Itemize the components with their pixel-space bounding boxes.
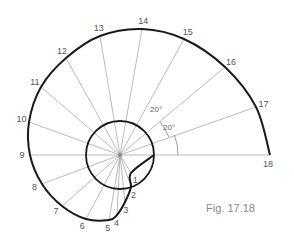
point-label: 13 — [94, 23, 104, 33]
point-label: 15 — [183, 27, 193, 37]
radial-line — [120, 29, 142, 155]
point-label: 12 — [57, 46, 67, 56]
point-label: 18 — [263, 159, 273, 169]
radial-line — [62, 155, 120, 206]
angle-arc — [175, 135, 178, 155]
center-point — [118, 153, 122, 157]
radial-line — [120, 67, 225, 155]
radial-line — [41, 87, 120, 155]
radial-line — [42, 155, 120, 184]
point-label: 17 — [259, 99, 269, 109]
involute-diagram: 20° 20° 123456789101112131415161718 Fig.… — [0, 0, 294, 248]
angle-label-1: 20° — [150, 105, 162, 114]
point-label: 6 — [80, 221, 85, 231]
point-label: 3 — [123, 205, 128, 215]
angle-label-2: 20° — [163, 123, 175, 132]
point-label: 7 — [53, 206, 58, 216]
figure-caption: Fig. 17.18 — [206, 202, 255, 214]
point-label: 4 — [114, 218, 119, 228]
radial-line — [120, 39, 184, 155]
point-label: 14 — [138, 16, 148, 26]
point-label: 10 — [16, 114, 26, 124]
point-label: 2 — [131, 190, 136, 200]
radial-line — [29, 122, 120, 155]
point-label: 1 — [133, 175, 138, 185]
radial-line — [120, 107, 256, 155]
point-label: 5 — [105, 223, 110, 233]
point-label: 9 — [19, 150, 24, 160]
point-label: 16 — [226, 57, 236, 67]
point-label: 8 — [32, 182, 37, 192]
point-label: 11 — [30, 77, 39, 87]
